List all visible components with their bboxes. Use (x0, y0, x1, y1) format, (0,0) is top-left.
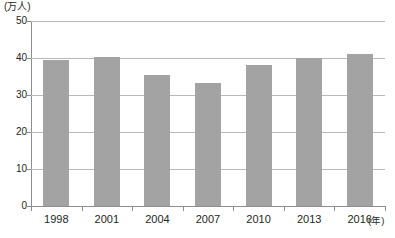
y-tick-label-20: 20 (3, 127, 27, 137)
bar-2001 (94, 57, 120, 206)
y-axis-unit-label: (万人) (4, 1, 31, 13)
y-tick-label-0: 0 (3, 201, 27, 211)
x-tick-label-1998: 1998 (31, 212, 81, 226)
y-tick-label-30: 30 (3, 90, 27, 100)
x-tick-label-2013: 2013 (284, 212, 334, 226)
x-tick-mark-4 (233, 206, 234, 211)
y-tick-label-40: 40 (3, 53, 27, 63)
x-tick-label-2004: 2004 (132, 212, 182, 226)
x-tick-mark-1 (82, 206, 83, 211)
x-tick-label-2007: 2007 (183, 212, 233, 226)
x-tick-mark-5 (284, 206, 285, 211)
bar-chart: (万人) 01020304050 19982001200420072010201… (0, 0, 395, 238)
bar-2016 (347, 54, 373, 206)
y-tick-label-10: 10 (3, 164, 27, 174)
bar-2013 (296, 58, 322, 206)
y-tick-label-50: 50 (3, 16, 27, 26)
x-tick-mark-0 (31, 206, 32, 211)
x-axis-tick-labels: 1998200120042007201020132016 (31, 212, 385, 228)
plot-area (31, 21, 385, 206)
x-axis-ticks (31, 206, 385, 211)
x-tick-mark-3 (183, 206, 184, 211)
x-tick-label-2001: 2001 (82, 212, 132, 226)
x-axis-unit-label: (年) (368, 214, 384, 227)
bars (31, 21, 385, 206)
bar-2007 (195, 83, 221, 206)
y-axis-tick-labels: 01020304050 (0, 21, 27, 207)
x-tick-label-2010: 2010 (234, 212, 284, 226)
bar-1998 (43, 60, 69, 206)
x-tick-mark-7 (385, 206, 386, 211)
x-tick-mark-6 (334, 206, 335, 211)
bar-2004 (144, 75, 170, 206)
bar-2010 (246, 65, 272, 206)
x-tick-mark-2 (132, 206, 133, 211)
